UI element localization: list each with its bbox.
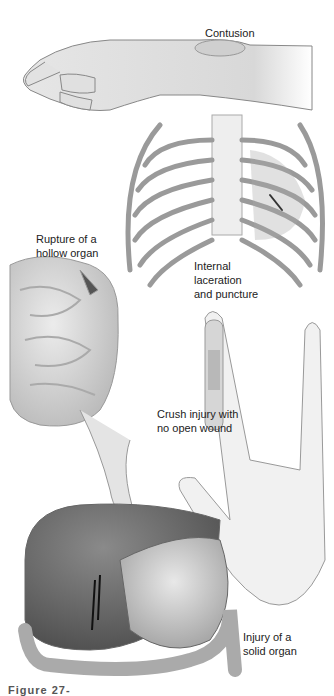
label-line: no open wound [157, 421, 238, 435]
label-line: laceration [194, 273, 258, 287]
label-line: and puncture [194, 287, 258, 301]
small-intestine [10, 257, 135, 516]
label-solid-organ: Injury of a solid organ [243, 630, 297, 658]
label-line: Crush injury with [157, 407, 238, 421]
label-internal-laceration: Internal laceration and puncture [194, 259, 258, 301]
label-line: hollow organ [36, 246, 98, 260]
arm-contusion [23, 40, 312, 111]
label-rupture-hollow-organ: Rupture of a hollow organ [36, 232, 98, 260]
label-line: Internal [194, 259, 258, 273]
liver-stomach [25, 504, 235, 670]
figure-caption: Figure 27- [8, 684, 71, 696]
label-line: Rupture of a [36, 232, 98, 246]
label-contusion: Contusion [205, 26, 255, 40]
label-line: Injury of a [243, 630, 297, 644]
label-crush-injury: Crush injury with no open wound [157, 407, 238, 435]
label-line: solid organ [243, 644, 297, 658]
